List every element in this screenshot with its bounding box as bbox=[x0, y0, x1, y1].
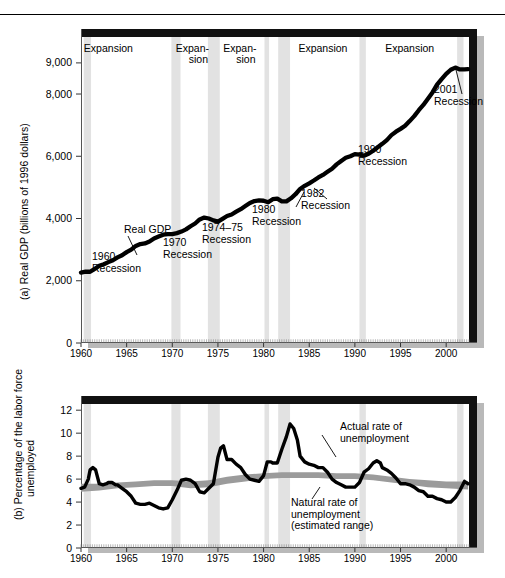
panel-b-axis-title-line2: unemployed bbox=[24, 440, 36, 497]
x-tick-label-a-2000: 2000 bbox=[435, 348, 458, 359]
panel-b-axis-title-line1: (b) Percentage of the labor force bbox=[12, 369, 24, 520]
expansion-label-4: Expansion bbox=[385, 42, 434, 54]
panel-b-frame-top bbox=[81, 396, 477, 404]
y-tick-label-b-0: 0 bbox=[66, 542, 72, 554]
x-tick-label-a-1975: 1975 bbox=[207, 348, 230, 359]
x-tick-label-a-1990: 1990 bbox=[344, 348, 367, 359]
recession-callout-5-line1: 1990 bbox=[358, 143, 382, 155]
x-tick-label-a-1965: 1965 bbox=[116, 348, 139, 359]
y-tick-label-b-12: 12 bbox=[60, 404, 72, 416]
y-tick-label-a-4000: 4,000 bbox=[46, 212, 72, 224]
recession-callout-6-line1: 2001 bbox=[434, 83, 458, 95]
y-tick-label-b-2: 2 bbox=[66, 519, 72, 531]
recession-callout-3-line2: Recession bbox=[252, 215, 301, 227]
y-tick-label-a-6000: 6,000 bbox=[46, 150, 72, 162]
panel-b-frame-right bbox=[469, 396, 477, 548]
x-tick-label-b-2000: 2000 bbox=[435, 553, 458, 564]
recession-band-a-5 bbox=[359, 37, 365, 343]
panel-b: 024681012 196019651970197519801985199019… bbox=[12, 369, 484, 564]
recession-callout-6-line2: Recession bbox=[434, 95, 483, 107]
x-tick-label-a-1995: 1995 bbox=[389, 348, 412, 359]
recession-callout-0-line1: 1960 bbox=[92, 250, 116, 262]
recession-band-a-0 bbox=[84, 37, 91, 343]
expansion-label-2-line2: sion bbox=[236, 53, 255, 65]
expansion-label-3: Expansion bbox=[298, 42, 347, 54]
y-tick-label-b-10: 10 bbox=[60, 427, 72, 439]
x-tick-label-b-1995: 1995 bbox=[389, 553, 412, 564]
y-tick-label-a-8000: 8,000 bbox=[46, 88, 72, 100]
recession-callout-0-line2: Recession bbox=[92, 262, 141, 274]
y-tick-label-a-9000: 9,000 bbox=[46, 56, 72, 68]
expansion-label-1-line2: sion bbox=[189, 53, 208, 65]
recession-callout-2-line2: Recession bbox=[202, 233, 251, 245]
recession-callout-1-line2: Recession bbox=[163, 248, 212, 260]
x-tick-label-b-1965: 1965 bbox=[116, 553, 139, 564]
y-tick-label-b-6: 6 bbox=[66, 473, 72, 485]
recession-callout-1-line1: 1970 bbox=[163, 236, 187, 248]
actual-rate-label-line1: Actual rate of bbox=[340, 420, 402, 432]
recession-band-b-6 bbox=[457, 404, 463, 548]
recession-callout-4-line2: Recession bbox=[301, 199, 350, 211]
business-cycle-figure: 02,0004,0006,0008,0009,000 1960196519701… bbox=[0, 0, 505, 578]
x-tick-label-b-1980: 1980 bbox=[252, 553, 275, 564]
y-tick-label-a-2000: 2,000 bbox=[46, 274, 72, 286]
y-tick-label-b-4: 4 bbox=[66, 496, 72, 508]
real-gdp-label: Real GDP bbox=[124, 223, 171, 235]
recession-band-a-4 bbox=[278, 37, 290, 343]
x-tick-label-a-1970: 1970 bbox=[161, 348, 184, 359]
panel-a-axis-title: (a) Real GDP (billions of 1996 dollars) bbox=[18, 123, 30, 300]
panel-a: 02,0004,0006,0008,0009,000 1960196519701… bbox=[18, 29, 484, 359]
natural-rate-label-line2: unemployment bbox=[291, 508, 360, 520]
recession-band-b-1 bbox=[171, 404, 180, 548]
x-tick-label-a-1960: 1960 bbox=[70, 348, 93, 359]
x-tick-label-b-1975: 1975 bbox=[207, 553, 230, 564]
x-tick-label-b-1985: 1985 bbox=[298, 553, 321, 564]
x-tick-label-b-1960: 1960 bbox=[70, 553, 93, 564]
recession-band-a-2 bbox=[208, 37, 220, 343]
recession-callout-2-line1: 1974–75 bbox=[202, 221, 243, 233]
natural-rate-label-line1: Natural rate of bbox=[291, 496, 358, 508]
x-tick-label-b-1970: 1970 bbox=[161, 553, 184, 564]
x-tick-label-a-1985: 1985 bbox=[298, 348, 321, 359]
recession-callout-3-line1: 1980 bbox=[252, 203, 276, 215]
panel-a-frame-top bbox=[81, 29, 477, 37]
recession-band-a-1 bbox=[171, 37, 180, 343]
panel-a-frame-right bbox=[469, 29, 477, 343]
recession-callout-4-line1: 1982 bbox=[301, 187, 325, 199]
recession-band-a-3 bbox=[265, 37, 270, 343]
y-tick-label-a-0: 0 bbox=[66, 337, 72, 349]
x-tick-label-b-1990: 1990 bbox=[344, 553, 367, 564]
expansion-label-0: Expansion bbox=[84, 42, 133, 54]
recession-callout-5-line2: Recession bbox=[358, 155, 407, 167]
y-tick-label-b-8: 8 bbox=[66, 450, 72, 462]
actual-rate-label-line2: unemployment bbox=[340, 432, 409, 444]
natural-rate-label-line3: (estimated range) bbox=[291, 519, 373, 531]
recession-band-a-6 bbox=[457, 37, 463, 343]
x-tick-label-a-1980: 1980 bbox=[252, 348, 275, 359]
